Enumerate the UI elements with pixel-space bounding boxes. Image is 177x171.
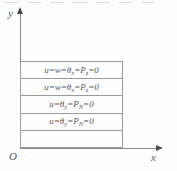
strip-row-1: u=w=θx=Pz=0 <box>21 62 122 79</box>
x-axis-line <box>20 148 158 149</box>
strip-row-4: u=θy=PN=0 <box>21 114 122 131</box>
figure: y x O u=w=θx=Pz=0 u=w=θx=Pz=0 u=θy=PN=0 … <box>0 0 177 171</box>
y-axis-label: y <box>8 8 13 19</box>
strip-label-3: u=θy=PN=0 <box>49 100 93 109</box>
strip-row-2: u=w=θx=Pz=0 <box>21 79 122 96</box>
x-axis-label: x <box>151 152 156 163</box>
layered-plate-rectangle: u=w=θx=Pz=0 u=w=θx=Pz=0 u=θy=PN=0 u=θy=P… <box>20 61 123 148</box>
strip-label-1: u=w=θx=Pz=0 <box>44 66 99 75</box>
origin-label: O <box>9 151 17 162</box>
strip-label-2: u=w=θx=Pz=0 <box>44 83 99 92</box>
strip-row-3: u=θy=PN=0 <box>21 96 122 113</box>
strip-row-5 <box>21 131 122 147</box>
scan-artifact-line <box>4 2 154 3</box>
strip-label-4: u=θy=PN=0 <box>49 117 93 126</box>
x-axis-arrow-icon <box>156 145 163 151</box>
y-axis-arrow-icon <box>17 7 23 14</box>
